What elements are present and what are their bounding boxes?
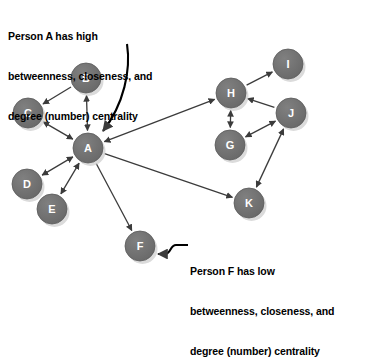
node-label: D <box>23 178 31 190</box>
annotation-person-f-line1: Person F has low <box>190 265 334 278</box>
node-g[interactable]: G <box>215 130 248 163</box>
annotation-leader-person-f <box>158 245 188 254</box>
node-label: E <box>48 203 55 215</box>
annotation-person-f: Person F has low betweenness, closeness,… <box>190 239 334 361</box>
node-label: F <box>137 240 144 252</box>
annotation-person-a-line3: degree (number) centrality <box>8 110 152 123</box>
node-label: J <box>288 107 294 119</box>
node-label: H <box>227 87 235 99</box>
node-label: G <box>226 139 235 151</box>
edge-h-i <box>247 72 273 85</box>
annotation-person-f-line3: degree (number) centrality <box>190 345 334 358</box>
node-a[interactable]: A <box>73 133 106 166</box>
edge-a-f <box>96 163 132 230</box>
edge-d-a <box>42 157 73 175</box>
annotation-person-a-line2: betweenness, closeness, and <box>8 70 152 83</box>
node-e[interactable]: E <box>37 194 70 227</box>
edge-j-h <box>248 99 275 108</box>
edge-j-k <box>256 129 283 187</box>
edge-e-a <box>61 163 79 194</box>
node-k[interactable]: K <box>234 188 267 221</box>
node-j[interactable]: J <box>276 98 309 131</box>
node-f[interactable]: F <box>125 231 158 264</box>
annotation-person-f-line2: betweenness, closeness, and <box>190 305 334 318</box>
edge-a-k <box>105 154 233 198</box>
node-h[interactable]: H <box>216 78 249 111</box>
edge-j-g <box>246 121 276 137</box>
node-label: A <box>84 142 92 154</box>
annotation-person-a-line1: Person A has high <box>8 30 152 43</box>
node-d[interactable]: D <box>12 169 45 202</box>
node-i[interactable]: I <box>273 49 306 82</box>
node-label: K <box>245 197 253 209</box>
annotation-person-a: Person A has high betweenness, closeness… <box>8 4 152 136</box>
node-label: I <box>286 58 289 70</box>
